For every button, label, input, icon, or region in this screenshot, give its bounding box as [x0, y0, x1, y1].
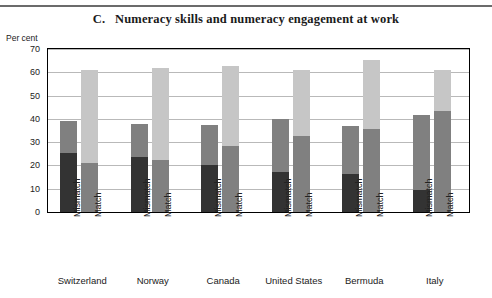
bar-segment: [363, 60, 380, 130]
x-axis-category-label: Italy: [426, 275, 443, 286]
bar-segment: [152, 68, 169, 160]
bar-segment: [201, 125, 218, 165]
header-rule: [0, 5, 492, 7]
y-axis-tick-label: 30: [30, 137, 40, 147]
x-axis-category-label: Canada: [207, 275, 240, 286]
x-axis-group-label: Mismatch: [283, 178, 293, 217]
x-axis-group-label: Mismatch: [72, 178, 82, 217]
y-axis-tick-label: 60: [30, 67, 40, 77]
x-axis-group-label: Mismatch: [354, 178, 364, 217]
x-axis-group-label: Match: [304, 192, 314, 217]
chart-title: C. Numeracy skills and numeracy engageme…: [0, 12, 492, 27]
bar: [363, 60, 380, 213]
bar: [293, 70, 310, 212]
x-axis-group-label: Match: [93, 192, 103, 217]
x-axis-group-label: Mismatch: [213, 178, 223, 217]
x-axis-group-label: Mismatch: [142, 178, 152, 217]
x-axis-labels: MismatchMatchMismatchMatchMismatchMatchM…: [0, 213, 492, 298]
y-axis-tick-label: 70: [30, 44, 40, 54]
x-axis-group-label: Match: [234, 192, 244, 217]
bar-segment: [293, 70, 310, 136]
bar: [222, 66, 239, 212]
bar-segment: [434, 70, 451, 111]
bar: [152, 68, 169, 212]
bar-segment: [81, 70, 98, 163]
bar: [434, 70, 451, 212]
bar-segment: [272, 119, 289, 172]
y-axis-tick-label: 40: [30, 114, 40, 124]
bar-segment: [60, 121, 77, 152]
x-axis-category-label: Switzerland: [58, 275, 107, 286]
y-axis-tick-label: 20: [30, 160, 40, 170]
x-axis-group-label: Mismatch: [424, 178, 434, 217]
y-axis-unit-label: Per cent: [6, 33, 38, 43]
x-axis-group-label: Match: [375, 192, 385, 217]
bar: [81, 70, 98, 212]
y-axis-tick-label: 10: [30, 184, 40, 194]
y-axis-tick-label: 50: [30, 91, 40, 101]
y-axis-tick-labels: 010203040506070: [0, 48, 45, 213]
bar-segment: [131, 124, 148, 157]
x-axis-category-label: United States: [265, 275, 322, 286]
bar-segment: [222, 66, 239, 146]
plot-area: [47, 48, 470, 213]
x-axis-category-label: Bermuda: [345, 275, 384, 286]
x-axis-group-label: Match: [163, 192, 173, 217]
bar-series-container: [48, 49, 469, 212]
x-axis-group-label: Match: [445, 192, 455, 217]
figure-panel-c: C. Numeracy skills and numeracy engageme…: [0, 0, 492, 298]
x-axis-category-label: Norway: [137, 275, 169, 286]
bar-segment: [342, 126, 359, 173]
